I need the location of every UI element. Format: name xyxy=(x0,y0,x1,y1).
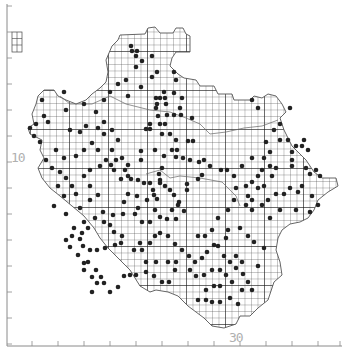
record-dot xyxy=(250,180,255,185)
record-dot xyxy=(132,248,137,253)
record-dot xyxy=(123,168,128,173)
record-dot xyxy=(50,166,55,171)
record-dot xyxy=(304,166,309,171)
record-dot xyxy=(86,260,91,265)
record-dot xyxy=(74,192,79,197)
record-dot xyxy=(308,210,313,215)
record-dot xyxy=(28,126,33,131)
record-dot xyxy=(111,213,116,218)
record-dot xyxy=(90,141,95,146)
record-dot xyxy=(302,138,307,143)
record-dot xyxy=(112,230,117,235)
record-dot xyxy=(178,106,183,111)
record-dot xyxy=(128,273,133,278)
record-dot xyxy=(203,234,208,239)
record-dot xyxy=(112,168,117,173)
record-dot xyxy=(62,156,67,161)
record-dot xyxy=(133,212,138,217)
record-dot xyxy=(170,208,175,213)
record-dot xyxy=(98,164,103,169)
record-dot xyxy=(165,113,170,118)
record-dot xyxy=(246,234,251,239)
record-dot xyxy=(181,156,186,161)
record-dot xyxy=(174,138,179,143)
record-dot xyxy=(246,194,251,199)
record-dot xyxy=(225,168,230,173)
record-dot xyxy=(70,184,75,189)
record-dot xyxy=(166,234,171,239)
record-dot xyxy=(153,234,158,239)
record-dot xyxy=(172,113,177,118)
record-dot xyxy=(102,132,107,137)
record-dot xyxy=(68,128,73,133)
record-dot xyxy=(290,150,295,155)
record-dot xyxy=(234,266,239,271)
record-dot xyxy=(152,193,157,198)
record-dot xyxy=(188,268,193,273)
record-dot xyxy=(194,274,199,279)
record-dot xyxy=(119,241,124,246)
record-dot xyxy=(262,184,267,189)
record-dot xyxy=(274,192,279,197)
record-dot xyxy=(52,204,57,209)
record-dot xyxy=(88,184,93,189)
record-dot xyxy=(139,158,144,163)
record-dot xyxy=(82,148,87,153)
record-dot xyxy=(260,168,265,173)
record-dot xyxy=(288,106,293,111)
record-dot xyxy=(197,160,202,165)
record-dot xyxy=(250,208,255,213)
record-dot xyxy=(62,194,67,199)
record-dot xyxy=(310,194,315,199)
record-dot xyxy=(188,158,193,163)
record-dot xyxy=(135,49,140,54)
record-dot xyxy=(234,254,239,259)
record-dot xyxy=(256,186,261,191)
record-dot xyxy=(116,82,121,87)
record-dot xyxy=(224,236,229,241)
record-dot xyxy=(204,288,209,293)
record-dot xyxy=(272,128,277,133)
record-dot xyxy=(153,208,158,213)
record-dot xyxy=(266,198,271,203)
record-dot xyxy=(202,273,207,278)
record-dot xyxy=(174,260,179,265)
record-dot xyxy=(64,238,69,243)
record-dot xyxy=(154,106,159,111)
record-dot xyxy=(104,158,109,163)
record-dot xyxy=(250,98,255,103)
record-dot xyxy=(148,122,153,127)
record-dot xyxy=(296,190,301,195)
record-dot xyxy=(136,206,141,211)
record-dot xyxy=(168,132,173,137)
record-dot xyxy=(95,248,100,253)
record-dot xyxy=(140,59,145,64)
record-dot xyxy=(144,127,149,132)
y-axis xyxy=(7,4,12,346)
record-dot xyxy=(163,184,168,189)
record-dot xyxy=(158,178,163,183)
record-dot xyxy=(204,298,209,303)
record-dot xyxy=(167,280,172,285)
record-dot xyxy=(64,212,69,217)
record-dot xyxy=(162,154,167,159)
record-dot xyxy=(268,216,273,221)
record-dot xyxy=(72,226,77,231)
record-dot xyxy=(148,241,153,246)
record-dot xyxy=(148,220,153,225)
record-dot xyxy=(136,178,141,183)
record-dot xyxy=(102,98,107,103)
record-dot xyxy=(196,298,201,303)
record-dot xyxy=(256,174,261,179)
record-dot xyxy=(182,209,187,214)
record-dot xyxy=(96,126,101,131)
record-dot xyxy=(108,223,113,228)
record-dot xyxy=(318,174,323,179)
record-dot xyxy=(246,280,251,285)
record-dot xyxy=(314,168,319,173)
record-dot xyxy=(196,177,201,182)
record-dot xyxy=(224,273,229,278)
record-dot xyxy=(208,164,213,169)
record-dot xyxy=(153,148,158,153)
record-dot xyxy=(222,254,227,259)
